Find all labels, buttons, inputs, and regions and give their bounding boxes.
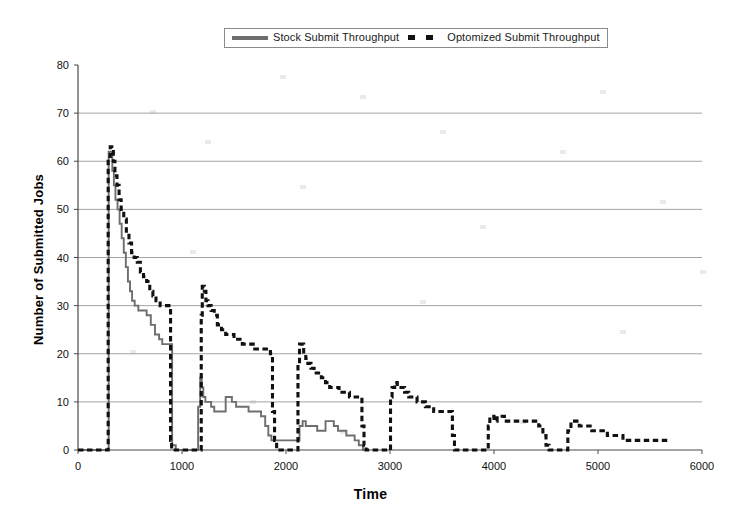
- y-tick-label: 80: [57, 59, 69, 71]
- y-axis-title: Number of Submitted Jobs: [31, 130, 46, 390]
- x-axis-title: Time: [0, 486, 741, 502]
- x-tick-label: 1000: [170, 460, 194, 472]
- chart-canvas: 01020304050607080 0100020003000400050006…: [0, 0, 741, 520]
- x-axis-ticks: 0100020003000400050006000: [75, 450, 714, 472]
- y-tick-label: 60: [57, 155, 69, 167]
- x-tick-label: 6000: [690, 460, 714, 472]
- x-tick-label: 5000: [586, 460, 610, 472]
- data-series-group: [78, 147, 671, 450]
- y-tick-label: 50: [57, 203, 69, 215]
- scan-noise: [130, 75, 706, 434]
- y-tick-label: 20: [57, 348, 69, 360]
- x-tick-label: 0: [75, 460, 81, 472]
- x-tick-label: 4000: [482, 460, 506, 472]
- y-tick-label: 40: [57, 252, 69, 264]
- y-tick-label: 0: [63, 444, 69, 456]
- x-tick-label: 2000: [274, 460, 298, 472]
- series-line-stock: [78, 152, 365, 450]
- y-tick-label: 10: [57, 396, 69, 408]
- y-tick-label: 70: [57, 107, 69, 119]
- y-axis-ticks: 01020304050607080: [57, 59, 78, 456]
- series-line-optimized: [78, 147, 671, 450]
- y-tick-label: 30: [57, 300, 69, 312]
- x-tick-label: 3000: [378, 460, 402, 472]
